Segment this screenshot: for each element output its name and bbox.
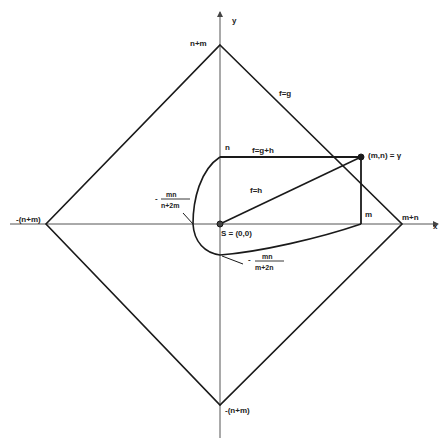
svg-text:-: - <box>248 255 251 264</box>
origin-label: S = (0,0) <box>221 229 252 238</box>
rect-n-label: n <box>225 143 230 152</box>
svg-text:mn: mn <box>166 191 177 198</box>
curve-bottom-label: - mn m+2n <box>248 253 284 271</box>
pointer-bottom-label <box>222 256 243 264</box>
diagonal-f-h <box>220 157 361 224</box>
curve-left-label: - mn n+2m <box>155 191 190 209</box>
vertex-bottom-label: -(n+m) <box>225 406 250 415</box>
diagram-canvas: y x n+m -(n+m) -(n+m) m+n n m f=g f=g+h … <box>0 0 448 443</box>
boundary-curve <box>193 157 361 255</box>
rect-m-label: m <box>365 210 372 219</box>
gamma-point <box>358 154 364 160</box>
diamond-boundary <box>46 45 402 405</box>
edge-f-g-label: f=g <box>279 89 291 98</box>
pointer-left-label <box>183 213 193 224</box>
origin-point <box>217 221 223 227</box>
x-axis-label: x <box>433 222 438 231</box>
svg-text:m+2n: m+2n <box>255 264 273 271</box>
svg-text:mn: mn <box>262 253 273 260</box>
edge-f-g-h-label: f=g+h <box>252 146 274 155</box>
vertex-right-label: m+n <box>402 213 419 222</box>
vertex-left-label: -(n+m) <box>16 215 41 224</box>
edge-f-h-label: f=h <box>250 186 262 195</box>
svg-text:-: - <box>155 194 158 203</box>
gamma-label: (m,n) = γ <box>368 151 402 160</box>
vertex-top-label: n+m <box>190 39 207 48</box>
svg-text:n+2m: n+2m <box>161 202 179 209</box>
y-axis-label: y <box>232 16 237 25</box>
